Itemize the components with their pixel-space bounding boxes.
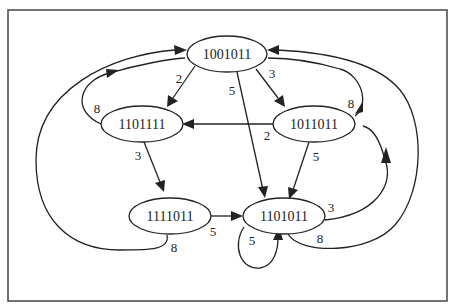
svg-text:1001011: 1001011 (203, 47, 251, 62)
svg-text:1011011: 1011011 (290, 117, 338, 132)
svg-text:5: 5 (229, 83, 236, 98)
svg-text:3: 3 (135, 148, 142, 163)
svg-text:5: 5 (313, 149, 320, 164)
svg-text:2: 2 (176, 71, 183, 86)
edge-1001011-to-1011011: 3 (256, 66, 285, 108)
node-1101011[interactable]: 1101011 (243, 198, 325, 234)
svg-text:8: 8 (94, 101, 101, 116)
svg-text:1101011: 1101011 (260, 209, 308, 224)
svg-text:5: 5 (210, 224, 217, 239)
edge-1001011-to-1101011: 5 (229, 72, 268, 198)
edge-1001011-to-1101111: 2 (167, 66, 195, 107)
svg-text:8: 8 (348, 96, 355, 111)
graph-canvas: 2 3 5 8 3 2 8 5 (0, 0, 454, 308)
svg-text:2: 2 (264, 128, 271, 143)
edge-1011011-to-1101111: 2 (182, 119, 273, 143)
edge-1011011-to-1101011: 5 (288, 142, 319, 199)
node-1111011[interactable]: 1111011 (129, 198, 211, 234)
svg-text:1101111: 1101111 (119, 117, 166, 132)
node-1011011[interactable]: 1011011 (273, 106, 355, 142)
svg-text:1111011: 1111011 (147, 209, 194, 224)
svg-text:8: 8 (317, 231, 324, 246)
edge-1111011-to-1101011: 5 (210, 211, 243, 239)
node-1101111[interactable]: 1101111 (101, 106, 183, 142)
svg-text:5: 5 (249, 233, 256, 248)
svg-text:3: 3 (269, 66, 276, 81)
svg-text:8: 8 (171, 240, 178, 255)
node-1001011[interactable]: 1001011 (187, 36, 267, 72)
edge-1101111-to-1111011: 3 (135, 142, 165, 192)
svg-text:3: 3 (328, 200, 335, 215)
